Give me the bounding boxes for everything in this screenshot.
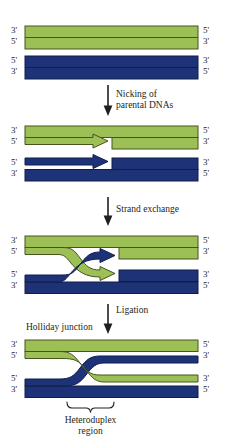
stage-3-graphics bbox=[0, 228, 227, 303]
stage1-blue-right-top: 3' bbox=[203, 56, 209, 65]
stage1-green-left-top: 3' bbox=[11, 26, 17, 35]
stage-1-parental-dnas: 3' 5' 5' 3' 5' 3' 3' 5' bbox=[0, 0, 227, 84]
step-nicking-arrow bbox=[0, 84, 227, 118]
stage3-blue-right-bottom: 5' bbox=[203, 281, 209, 290]
blue-duplex-stage2 bbox=[25, 155, 198, 182]
heteroduplex-caption-line2: region bbox=[0, 426, 181, 437]
stage3-green-right-bottom: 3' bbox=[203, 247, 209, 256]
stage3-green-left-top: 3' bbox=[11, 236, 17, 245]
stage1-blue-left-bottom: 3' bbox=[11, 67, 17, 76]
step-nicking-line2: parental DNAs bbox=[116, 100, 173, 111]
stage-2-nicked-dnas: 3' 5' 5' 3' 5' 3' 3' 5' bbox=[0, 118, 227, 196]
stage4-blue-right-top: 3' bbox=[203, 374, 209, 383]
green-top-strand-stage4 bbox=[25, 340, 198, 352]
stage1-green-right-top: 5' bbox=[203, 26, 209, 35]
stage3-blue-right-top: 3' bbox=[203, 270, 209, 279]
stage3-blue-left-bottom: 3' bbox=[11, 281, 17, 290]
stage2-blue-right-bottom: 5' bbox=[203, 169, 209, 178]
stage4-blue-left-top: 5' bbox=[11, 374, 17, 383]
step-ligation-line1: Ligation bbox=[116, 305, 148, 316]
blue-upper-right-stage3 bbox=[119, 270, 198, 282]
green-lower-right-stage3 bbox=[119, 248, 198, 260]
step-strand-exchange: Strand exchange bbox=[0, 196, 227, 228]
stage-1-graphics bbox=[0, 0, 227, 84]
step-nicking-line1: Nicking of bbox=[116, 89, 157, 100]
holliday-junction-label: Holliday junction bbox=[26, 322, 93, 333]
stage1-green-left-bottom: 5' bbox=[11, 37, 17, 46]
stage4-blue-left-bottom: 3' bbox=[11, 385, 17, 394]
stage-4-holliday-junction: 3' 5' 5' 3' 5' 3' 3' 5' Heteroduplex reg… bbox=[0, 336, 227, 433]
blue-bottom-strand-stage3 bbox=[25, 282, 198, 294]
heteroduplex-caption-line1: Heteroduplex bbox=[0, 415, 181, 426]
stage3-blue-left-top: 5' bbox=[11, 270, 17, 279]
stage4-green-right-top: 5' bbox=[203, 340, 209, 349]
green-duplex-stage2 bbox=[25, 126, 198, 149]
blue-bottom-strand-stage4 bbox=[25, 386, 198, 398]
blue-nick-arrowhead bbox=[25, 155, 108, 169]
stage2-blue-right-top: 3' bbox=[203, 158, 209, 167]
green-top-strand-stage3 bbox=[25, 236, 198, 248]
stage2-blue-left-top: 5' bbox=[11, 158, 17, 167]
stage4-green-left-top: 3' bbox=[11, 340, 17, 349]
step-ligation: Ligation Holliday junction bbox=[0, 303, 227, 336]
stage4-green-left-bottom: 5' bbox=[11, 351, 17, 360]
stage2-green-right-top: 5' bbox=[203, 126, 209, 135]
step-strand-exchange-line1: Strand exchange bbox=[116, 204, 179, 215]
stage1-green-right-bottom: 3' bbox=[203, 37, 209, 46]
stage1-blue-right-bottom: 5' bbox=[203, 67, 209, 76]
stage3-green-left-bottom: 5' bbox=[11, 247, 17, 256]
stage-2-graphics bbox=[0, 118, 227, 196]
stage4-blue-right-bottom: 5' bbox=[203, 385, 209, 394]
stage2-green-left-bottom: 5' bbox=[11, 137, 17, 146]
stage2-blue-left-bottom: 3' bbox=[11, 169, 17, 178]
stage1-blue-left-top: 5' bbox=[11, 56, 17, 65]
green-duplex-stage1 bbox=[25, 26, 198, 49]
step-strand-exchange-arrow bbox=[0, 196, 227, 228]
stage4-green-right-bottom: 3' bbox=[203, 351, 209, 360]
stage-3-strand-exchange: 3' 5' 5' 3' 5' 3' 3' 5' bbox=[0, 228, 227, 303]
step-nicking: Nicking of parental DNAs bbox=[0, 84, 227, 118]
stage2-green-right-bottom: 3' bbox=[203, 137, 209, 146]
blue-duplex-stage1 bbox=[25, 56, 198, 79]
stage3-green-right-top: 5' bbox=[203, 236, 209, 245]
heteroduplex-brace bbox=[67, 402, 114, 412]
stage2-green-left-top: 3' bbox=[11, 126, 17, 135]
